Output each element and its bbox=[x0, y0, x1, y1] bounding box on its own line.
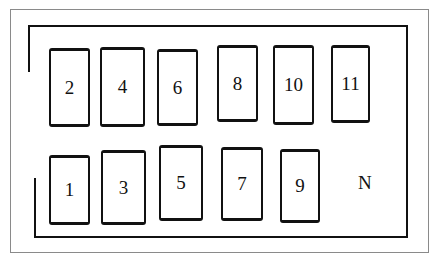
fuse-slot-10: 10 bbox=[273, 45, 314, 125]
slot-number: 6 bbox=[173, 77, 183, 99]
fuse-slot-5: 5 bbox=[159, 145, 203, 221]
housing-right-edge bbox=[406, 25, 408, 238]
fuse-slot-7: 7 bbox=[221, 147, 263, 221]
housing-left-upper-edge bbox=[28, 25, 30, 72]
housing-left-lower-edge bbox=[34, 178, 36, 238]
fuse-slot-3: 3 bbox=[101, 150, 146, 225]
slot-number: 5 bbox=[176, 172, 186, 194]
fuse-slot-6: 6 bbox=[157, 49, 198, 126]
fuse-slot-2: 2 bbox=[49, 48, 90, 127]
slot-number: 8 bbox=[233, 73, 243, 95]
slot-number: 1 bbox=[65, 179, 75, 201]
slot-number: 11 bbox=[341, 73, 359, 95]
position-label-n: N bbox=[358, 172, 372, 194]
slot-number: 4 bbox=[118, 76, 128, 98]
fuse-slot-4: 4 bbox=[100, 47, 145, 127]
slot-number: 10 bbox=[284, 74, 303, 96]
slot-number: 7 bbox=[237, 173, 247, 195]
housing-top-edge bbox=[28, 25, 408, 27]
fuse-slot-8: 8 bbox=[217, 45, 258, 122]
fuse-slot-11: 11 bbox=[331, 45, 370, 123]
fuse-slot-9: 9 bbox=[280, 149, 320, 223]
housing-bottom-edge bbox=[35, 236, 408, 238]
slot-number: 9 bbox=[295, 175, 305, 197]
slot-number: 2 bbox=[65, 77, 75, 99]
fuse-slot-1: 1 bbox=[49, 155, 90, 225]
slot-number: 3 bbox=[119, 177, 129, 199]
